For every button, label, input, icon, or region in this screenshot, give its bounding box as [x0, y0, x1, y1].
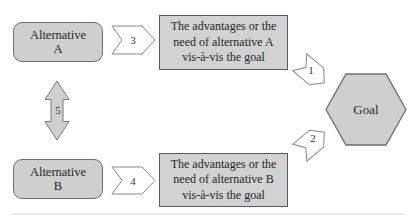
node-alternative-b: Alternative B	[13, 159, 103, 199]
arrow-1-label: 1	[308, 64, 314, 76]
arrow-2-label: 2	[310, 132, 316, 144]
bottom-rule	[12, 213, 404, 215]
node-advantage-b: The advantages or the need of alternativ…	[159, 153, 288, 207]
node-alternative-a: Alternative A	[13, 22, 103, 62]
goal-label: Goal	[353, 102, 378, 118]
node-advantage-a: The advantages or the need of alternativ…	[159, 15, 288, 70]
arrow-4-label: 4	[130, 175, 136, 187]
arrow-5-label: 5	[55, 104, 61, 116]
diagram-canvas: Alternative A Alternative B The advantag…	[0, 0, 416, 218]
arrow-3-label: 3	[130, 34, 136, 46]
